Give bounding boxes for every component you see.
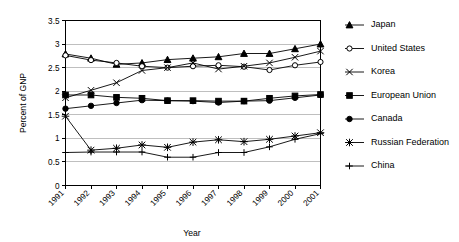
marker-asterisk: [189, 138, 197, 146]
marker-filled-circle: [216, 100, 221, 105]
chart-svg: 00.511.522.533.5 19911992199319941995199…: [0, 0, 459, 242]
x-axis-title: Year: [183, 228, 201, 238]
marker-asterisk: [164, 144, 172, 152]
circle-marker-filled: [63, 106, 68, 111]
circle-marker-filled: [318, 92, 323, 97]
marker-asterisk: [266, 136, 274, 144]
square-marker: [114, 95, 120, 101]
marker-asterisk: [240, 138, 248, 146]
y-tick-label: 3.5: [48, 17, 60, 26]
marker-filled-circle: [88, 103, 93, 108]
circle-marker-open: [318, 59, 323, 64]
legend-label: Korea: [371, 66, 395, 76]
y-tick-label: 1.5: [48, 111, 60, 120]
circle-marker-filled: [88, 103, 93, 108]
marker-asterisk: [138, 141, 146, 149]
marker-filled-circle: [139, 97, 144, 102]
y-axis-title: Percent of GNP: [18, 73, 28, 133]
square-marker: [88, 92, 94, 98]
marker-filled-circle: [63, 106, 68, 111]
marker-open-circle: [347, 46, 352, 51]
circle-marker-filled: [165, 98, 170, 103]
marker-filled-square: [347, 93, 353, 99]
circle-marker-filled: [190, 98, 195, 103]
y-tick-label: 1: [55, 134, 60, 143]
marker-filled-circle: [347, 116, 352, 121]
y-tick-label: 3: [55, 40, 60, 49]
marker-asterisk: [346, 139, 354, 147]
marker-filled-circle: [190, 98, 195, 103]
marker-filled-circle: [318, 92, 323, 97]
marker-filled-square: [114, 95, 120, 101]
legend-label: Russian Federation: [371, 137, 449, 147]
marker-filled-circle: [292, 95, 297, 100]
chart-figure: 00.511.522.533.5 19911992199319941995199…: [0, 0, 459, 242]
legend-label: Japan: [371, 19, 396, 29]
marker-open-circle: [318, 59, 323, 64]
circle-marker-filled: [241, 98, 246, 103]
marker-filled-square: [88, 92, 94, 98]
marker-open-circle: [292, 63, 297, 68]
circle-marker-open: [267, 67, 272, 72]
legend-label: China: [371, 160, 395, 170]
marker-asterisk: [215, 136, 223, 144]
marker-open-circle: [267, 67, 272, 72]
marker-filled-square: [63, 92, 69, 98]
legend-label: European Union: [371, 90, 436, 100]
circle-marker-open: [114, 60, 119, 65]
circle-marker-filled: [139, 97, 144, 102]
marker-asterisk: [62, 112, 70, 120]
circle-marker-open: [292, 63, 297, 68]
square-marker: [63, 92, 69, 98]
circle-marker-filled: [347, 116, 352, 121]
y-tick-label: 0.5: [48, 158, 60, 167]
marker-open-circle: [63, 53, 68, 58]
marker-filled-circle: [267, 98, 272, 103]
legend-label: United States: [371, 43, 426, 53]
marker-filled-circle: [114, 100, 119, 105]
y-tick-label: 2.5: [48, 64, 60, 73]
circle-marker-filled: [216, 100, 221, 105]
marker-filled-circle: [165, 98, 170, 103]
circle-marker-open: [63, 53, 68, 58]
marker-open-circle: [88, 58, 93, 63]
y-tick-label: 2: [55, 87, 60, 96]
circle-marker-open: [88, 58, 93, 63]
circle-marker-open: [347, 46, 352, 51]
square-marker: [347, 93, 353, 99]
legend-label: Canada: [371, 113, 403, 123]
circle-marker-filled: [114, 100, 119, 105]
marker-open-circle: [114, 60, 119, 65]
circle-marker-filled: [292, 95, 297, 100]
marker-filled-circle: [241, 98, 246, 103]
circle-marker-filled: [267, 98, 272, 103]
